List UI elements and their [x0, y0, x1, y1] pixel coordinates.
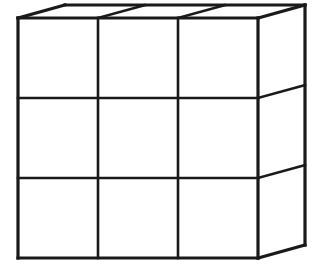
cube-diagram: 3x3 subdivided cube Line drawing of a cu… — [0, 0, 326, 275]
face-fills — [18, 5, 305, 258]
right-face — [258, 5, 305, 258]
front-face — [18, 18, 258, 258]
figure-canvas: 3x3 subdivided cube Line drawing of a cu… — [0, 0, 326, 275]
